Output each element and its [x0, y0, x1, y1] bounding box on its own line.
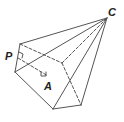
pyramid-diagram: C P A	[0, 0, 124, 122]
hidden-edge-back-bottomright	[62, 63, 81, 105]
hidden-edge-topleft-back	[20, 44, 62, 63]
right-angle-mark-p	[19, 52, 23, 58]
label-p: P	[5, 50, 13, 62]
hidden-segment-pa	[18, 58, 48, 76]
pyramid-svg: C P A	[0, 0, 124, 122]
label-c: C	[108, 6, 117, 18]
label-a: A	[43, 80, 52, 92]
edge-bottom-bottomright	[53, 105, 81, 109]
